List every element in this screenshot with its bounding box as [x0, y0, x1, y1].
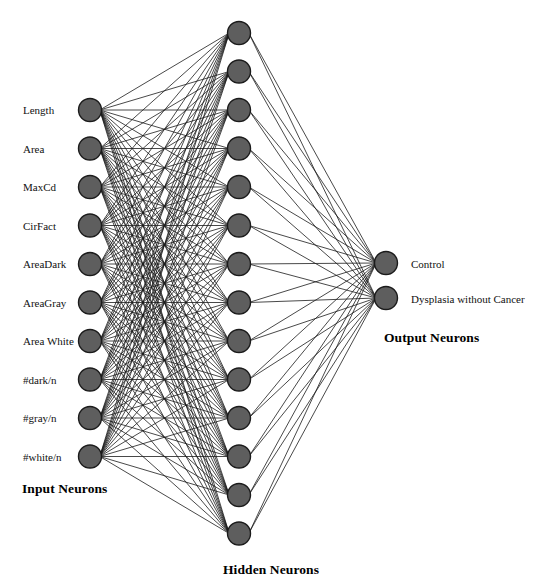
- input-label-2: MaxCd: [23, 181, 56, 193]
- edge-input-9-to-hidden-13: [100, 457, 229, 534]
- input-neuron-1: [79, 137, 102, 160]
- neural-network-diagram: LengthAreaMaxCdCirFactAreaDarkAreaGrayAr…: [0, 0, 543, 582]
- output-label-0: Control: [411, 258, 445, 270]
- input-neuron-8: [79, 407, 102, 430]
- input-neuron-4: [79, 253, 102, 276]
- input-label-9: #white/n: [23, 451, 62, 463]
- edge-hidden-5-to-output-1: [249, 226, 376, 299]
- edge-hidden-10-to-output-1: [249, 298, 376, 418]
- output-neuron-0: [375, 252, 398, 275]
- edge-hidden-1-to-output-0: [249, 72, 376, 264]
- input-neuron-6: [79, 330, 102, 353]
- edge-input-9-to-hidden-0: [100, 33, 229, 457]
- input-neuron-3: [79, 214, 102, 237]
- input-neuron-5: [79, 291, 102, 314]
- input-label-5: AreaGray: [23, 297, 66, 309]
- edge-hidden-13-to-output-0: [249, 263, 376, 534]
- input-label-8: #gray/n: [23, 412, 57, 424]
- edge-hidden-0-to-output-0: [249, 33, 376, 263]
- edge-hidden-2-to-output-0: [249, 110, 376, 263]
- hidden-neuron-10: [228, 407, 251, 430]
- input-label-0: Length: [23, 104, 54, 116]
- input-layer-caption: Input Neurons: [22, 481, 107, 497]
- input-neuron-7: [79, 368, 102, 391]
- input-label-1: Area: [23, 143, 44, 155]
- edge-hidden-11-to-output-0: [249, 263, 376, 457]
- hidden-layer-caption: Hidden Neurons: [223, 562, 319, 578]
- edge-input-0-to-hidden-0: [100, 33, 229, 110]
- output-label-1: Dysplasia without Cancer: [411, 293, 525, 305]
- hidden-neuron-13: [228, 522, 251, 545]
- input-neuron-0: [79, 99, 102, 122]
- input-label-3: CirFact: [23, 220, 56, 232]
- output-neuron-1: [375, 287, 398, 310]
- hidden-neuron-12: [228, 484, 251, 507]
- edge-hidden-12-to-output-1: [249, 298, 376, 495]
- edge-hidden-10-to-output-0: [249, 263, 376, 418]
- hidden-neuron-4: [228, 176, 251, 199]
- hidden-neuron-9: [228, 368, 251, 391]
- input-neuron-2: [79, 176, 102, 199]
- hidden-neuron-8: [228, 330, 251, 353]
- edge-hidden-3-to-output-1: [249, 149, 376, 299]
- edge-hidden-4-to-output-0: [249, 187, 376, 263]
- hidden-neuron-3: [228, 137, 251, 160]
- input-label-4: AreaDark: [23, 258, 66, 270]
- input-label-7: #dark/n: [23, 374, 57, 386]
- hidden-neuron-2: [228, 99, 251, 122]
- edge-hidden-12-to-output-0: [249, 263, 376, 495]
- hidden-neuron-6: [228, 253, 251, 276]
- input-neuron-9: [79, 445, 102, 468]
- input-label-6: Area White: [23, 335, 74, 347]
- hidden-neuron-11: [228, 445, 251, 468]
- output-layer-caption: Output Neurons: [384, 330, 479, 346]
- edge-hidden-13-to-output-1: [249, 298, 376, 534]
- hidden-neuron-5: [228, 214, 251, 237]
- hidden-neuron-7: [228, 291, 251, 314]
- edge-hidden-5-to-output-0: [249, 226, 376, 264]
- hidden-neuron-1: [228, 60, 251, 83]
- hidden-neuron-0: [228, 22, 251, 45]
- edge-hidden-9-to-output-1: [249, 298, 376, 380]
